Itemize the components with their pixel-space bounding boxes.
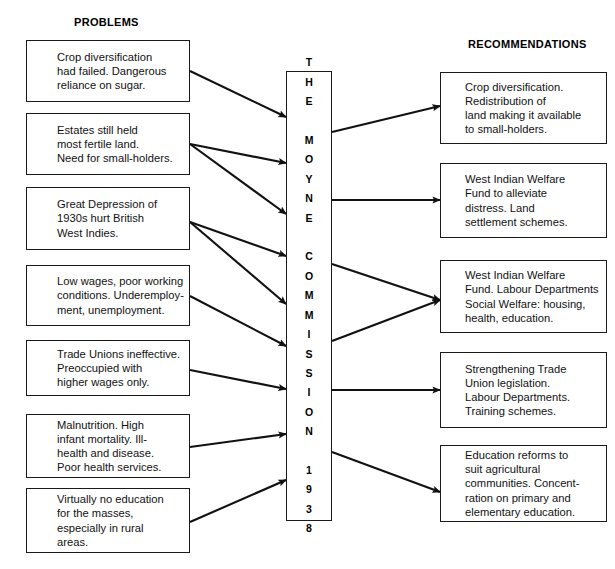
recommendation-box-2-text: West Indian Welfare Fund to alleviate di…: [441, 172, 606, 229]
arrow-problem-6-to-commission: [190, 434, 286, 447]
arrow-problem-7-to-commission: [190, 480, 286, 522]
diagram-canvas: PROBLEMS RECOMMENDATIONS: [0, 0, 615, 569]
problem-box-1-text: Crop diversification had failed. Dangero…: [27, 50, 189, 93]
problem-box-7-text: Virtually no education for the masses, e…: [27, 492, 189, 549]
problem-box-2[interactable]: Estates still held most fertile land. Ne…: [26, 113, 190, 175]
recommendation-box-5[interactable]: Education reforms to suit agricultural c…: [440, 445, 607, 522]
arrow-problem-3a-to-commission: [190, 222, 286, 256]
problem-box-4[interactable]: Low wages, poor working conditions. Unde…: [26, 265, 190, 326]
moyne-commission-label: T H E M O Y N E C O M M I S S I O N 1 9 …: [305, 53, 314, 538]
moyne-commission-column[interactable]: T H E M O Y N E C O M M I S S I O N 1 9 …: [286, 71, 332, 521]
problem-box-7[interactable]: Virtually no education for the masses, e…: [26, 488, 190, 553]
arrow-commission-to-recommendation-5: [332, 452, 440, 492]
recommendation-box-3-text: West Indian Welfare Fund. Labour Departm…: [441, 268, 606, 325]
arrow-problem-3b-to-commission: [190, 222, 286, 304]
recommendation-box-2[interactable]: West Indian Welfare Fund to alleviate di…: [440, 163, 607, 238]
problem-box-5[interactable]: Trade Unions ineffective. Preoccupied wi…: [26, 340, 190, 396]
arrow-commission-to-recommendation-3a: [332, 264, 440, 300]
arrow-commission-to-recommendation-1: [332, 106, 440, 132]
recommendation-box-1[interactable]: Crop diversification. Redistribution of …: [440, 72, 607, 144]
arrow-commission-to-recommendation-3b: [332, 300, 440, 341]
problem-box-6-text: Malnutrition. High infant mortality. Ill…: [27, 418, 189, 475]
recommendation-box-1-text: Crop diversification. Redistribution of …: [441, 80, 606, 137]
problem-box-1[interactable]: Crop diversification had failed. Dangero…: [26, 40, 190, 102]
arrow-problem-1-to-commission: [190, 71, 286, 117]
recommendation-box-3[interactable]: West Indian Welfare Fund. Labour Departm…: [440, 260, 607, 333]
recommendation-box-4[interactable]: Strengthening Trade Union legislation. L…: [440, 352, 607, 428]
arrow-problem-4-to-commission: [190, 296, 286, 346]
recommendation-box-5-text: Education reforms to suit agricultural c…: [441, 448, 606, 519]
problem-to-commission-arrows: [190, 71, 286, 522]
problem-box-4-text: Low wages, poor working conditions. Unde…: [27, 274, 189, 317]
arrow-problem-5-to-commission: [190, 370, 286, 389]
problem-box-2-text: Estates still held most fertile land. Ne…: [27, 123, 189, 166]
recommendation-box-4-text: Strengthening Trade Union legislation. L…: [441, 362, 606, 419]
commission-to-recommendation-arrows: [332, 106, 440, 492]
problem-box-6[interactable]: Malnutrition. High infant mortality. Ill…: [26, 414, 190, 478]
problem-box-3-text: Great Depression of 1930s hurt British W…: [27, 197, 189, 240]
problem-box-3[interactable]: Great Depression of 1930s hurt British W…: [26, 187, 190, 250]
problem-box-5-text: Trade Unions ineffective. Preoccupied wi…: [27, 347, 189, 390]
